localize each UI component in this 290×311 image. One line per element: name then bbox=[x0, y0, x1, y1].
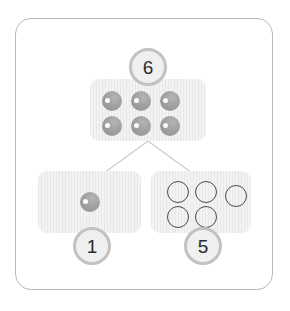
badge-five[interactable]: 5 bbox=[184, 227, 222, 265]
dot-filled-icon bbox=[131, 91, 151, 111]
card-one[interactable] bbox=[38, 171, 141, 233]
dot-hollow-icon bbox=[195, 206, 217, 228]
dot-filled-icon bbox=[131, 116, 151, 136]
dot-grid-five bbox=[167, 181, 245, 228]
badge-five-label: 5 bbox=[198, 237, 209, 256]
dot-filled-icon bbox=[102, 91, 122, 111]
diagram-canvas: 6 1 5 bbox=[0, 0, 290, 311]
dot-hollow-icon bbox=[195, 181, 217, 203]
dot-filled-icon bbox=[160, 116, 180, 136]
dot-hollow-icon bbox=[167, 206, 189, 228]
dot-grid-one bbox=[80, 192, 100, 212]
badge-one-label: 1 bbox=[87, 237, 98, 256]
badge-one[interactable]: 1 bbox=[73, 227, 111, 265]
badge-six-label: 6 bbox=[143, 58, 154, 77]
dot-filled-icon bbox=[102, 116, 122, 136]
dot-grid-six bbox=[102, 91, 180, 136]
card-five[interactable] bbox=[151, 171, 251, 233]
dot-filled-icon bbox=[80, 192, 100, 212]
dot-filled-icon bbox=[160, 91, 180, 111]
badge-six[interactable]: 6 bbox=[129, 48, 167, 86]
dot-hollow-icon bbox=[225, 185, 247, 207]
dot-hollow-icon bbox=[167, 181, 189, 203]
card-six[interactable] bbox=[90, 79, 206, 141]
